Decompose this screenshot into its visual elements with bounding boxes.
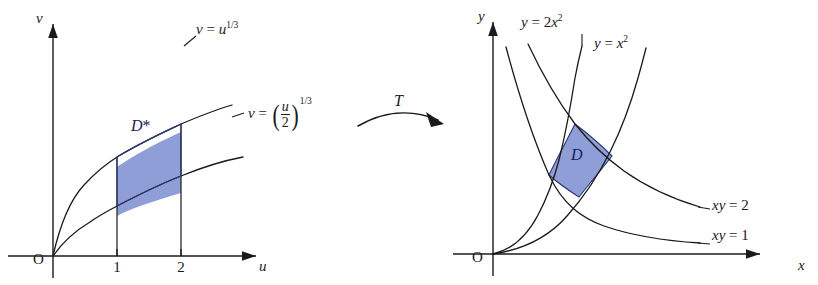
label2-lhs-v: v [248, 105, 255, 121]
leader-line-lower-curve [232, 113, 244, 117]
transformation-label-t: T [394, 93, 403, 109]
uv-tick-label-1: 1 [107, 260, 127, 275]
label3-lhs-y: y [521, 14, 528, 30]
uv-axes [8, 24, 256, 278]
region-label-d-star-asterisk: * [143, 117, 151, 134]
uv-horizontal-axis-label: u [259, 259, 267, 274]
leader-line-xy-equals-2 [698, 207, 710, 209]
xy-vertical-axis-label: y [478, 9, 485, 24]
curved-arrow-path [358, 113, 438, 126]
right-paren: ) [291, 102, 298, 128]
label-curve-v-equals-u-over-2-cuberoot: v = (u2)1/3 [248, 99, 312, 130]
label3-exponent-2: 2 [558, 13, 563, 23]
fraction-numerator-u: u [281, 99, 290, 114]
curved-arrow-head [426, 112, 444, 127]
label-lhs-v: v [196, 21, 203, 37]
uv-tick-label-2: 2 [171, 260, 191, 275]
uv-vertical-axis-label: v [36, 11, 43, 26]
region-label-d-star: D* [131, 118, 151, 134]
curve-xy-equals-1 [506, 47, 700, 243]
xy-horizontal-axis-label: x [798, 258, 805, 273]
change-of-variables-figure: v u O 1 2 D* v = u1/3 v = (u2)1/3 T [0, 0, 818, 285]
label6-text: xy = 1 [712, 227, 749, 243]
label-curve-y-equals-2x-squared: y = 2x2 [521, 14, 563, 30]
fraction-denominator-2: 2 [281, 114, 290, 130]
label-curve-xy-equals-1: xy = 1 [712, 228, 749, 243]
fraction-u-over-2-in-parens: (u2) [271, 99, 300, 130]
xy-plane-graph [448, 0, 818, 285]
label5-text: xy = 2 [712, 197, 749, 213]
uv-plane-graph [0, 0, 400, 285]
label4-lhs-y: y [594, 35, 601, 51]
curve-xy-equals-2 [528, 44, 700, 207]
uv-tick-marks [117, 249, 181, 256]
label3-variable-x: x [551, 14, 558, 30]
label-curve-y-equals-x-squared: y = x2 [594, 35, 628, 51]
leader-line-xy-equals-1 [698, 243, 710, 244]
fraction-u-over-2: u2 [281, 99, 290, 130]
region-d-star-fill [117, 132, 181, 216]
left-paren: ( [272, 102, 279, 128]
label2-exponent-one-third: 1/3 [300, 96, 312, 106]
region-label-d-star-letter: D [131, 117, 143, 134]
label4-exponent-2: 2 [623, 34, 628, 44]
label-exponent-one-third: 1/3 [226, 20, 238, 30]
label-curve-xy-equals-2: xy = 2 [712, 198, 749, 213]
leader-line-upper-curve [184, 36, 196, 46]
uv-origin-label: O [33, 252, 44, 267]
region-label-d: D [571, 147, 583, 163]
xy-origin-label: O [472, 250, 483, 265]
label-curve-v-equals-u-cuberoot: v = u1/3 [196, 21, 238, 37]
